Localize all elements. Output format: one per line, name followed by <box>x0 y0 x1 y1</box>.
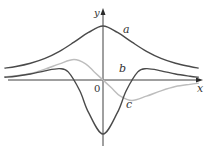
y-axis-arrow-icon <box>101 8 106 15</box>
curve-c-label: c <box>126 98 132 111</box>
curve-b-label: b <box>119 62 126 75</box>
origin-label: 0 <box>94 83 100 94</box>
x-axis-label: x <box>197 82 204 95</box>
axes <box>8 8 203 146</box>
curve-a-label: a <box>123 23 130 36</box>
y-axis-label: y <box>93 7 100 18</box>
curve-a <box>4 26 198 68</box>
chart: x y 0 a b c <box>0 0 208 149</box>
